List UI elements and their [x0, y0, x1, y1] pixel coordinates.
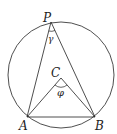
- label-C: C: [51, 66, 60, 80]
- segment-CB: [61, 78, 95, 117]
- label-phi: φ: [57, 87, 64, 98]
- angle-arc-gamma: [49, 31, 55, 32]
- label-P: P: [42, 11, 52, 25]
- label-gamma: γ: [48, 34, 54, 44]
- label-A: A: [18, 119, 28, 133]
- geometry-diagram: P γ C φ A B: [0, 0, 117, 134]
- circumcircle: [8, 22, 114, 128]
- label-B: B: [94, 119, 104, 133]
